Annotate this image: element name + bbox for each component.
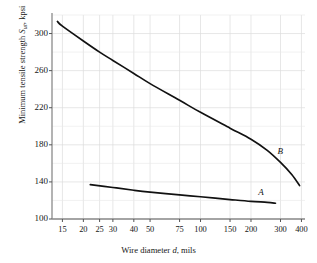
- x-axis-label-units: , mils: [177, 245, 196, 255]
- chart-canvas: [0, 0, 317, 263]
- chart-figure: 100140180220260300 152025304050751001502…: [0, 0, 317, 263]
- x-tick-label: 100: [189, 225, 213, 234]
- y-axis-label: Minimum tensile strength Sut, kpsi: [18, 0, 27, 150]
- curve-label-b: B: [278, 146, 284, 156]
- y-axis-label-variable: S: [18, 29, 27, 33]
- y-axis-label-subscript: ut: [21, 24, 28, 29]
- y-axis-label-units: , kpsi: [18, 6, 27, 25]
- x-tick-label: 50: [138, 225, 162, 234]
- data-curves: [57, 21, 299, 203]
- y-axis-label-text: Minimum tensile strength: [18, 33, 27, 123]
- x-tick-label: 200: [239, 225, 263, 234]
- x-axis-label: Wire diameter d, mils: [0, 245, 317, 255]
- curve-label-a: A: [258, 187, 264, 197]
- x-tick-label: 400: [289, 225, 313, 234]
- y-tick-label: 140: [20, 176, 48, 186]
- y-tick-label: 100: [20, 213, 48, 223]
- x-axis-label-text: Wire diameter: [121, 245, 172, 255]
